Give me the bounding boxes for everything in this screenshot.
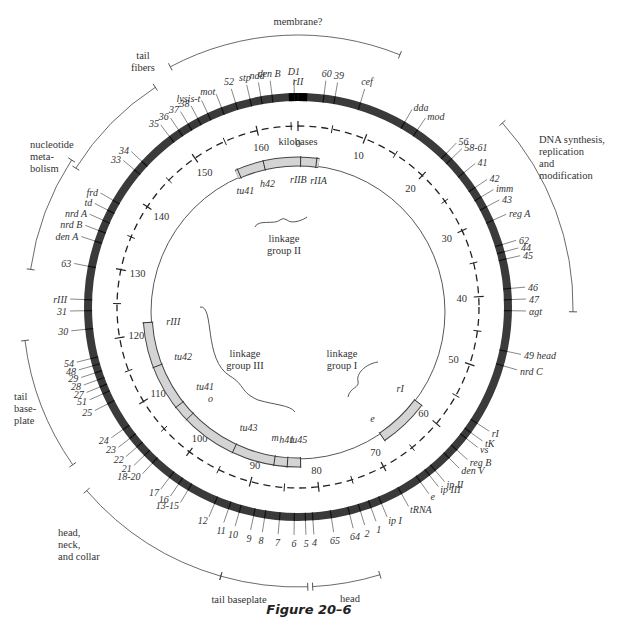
gene-leader [251, 516, 254, 530]
gene-label: αgt [529, 306, 542, 317]
gene-leader [270, 81, 272, 95]
gene-label: 8 [259, 535, 264, 546]
gene-label: 56 [459, 136, 469, 147]
gene-leader [71, 329, 85, 330]
gene-leader [224, 509, 229, 522]
gene-label: nrd B [60, 219, 82, 230]
region-label-tail-fibers: fibers [131, 62, 155, 73]
major-tick [143, 204, 151, 210]
scale-label-10: 10 [353, 150, 364, 161]
gene-label: rI [492, 428, 500, 439]
gene-leader [258, 82, 260, 96]
gene-leader [111, 430, 122, 438]
region-label-tail-baseplate: base- [14, 403, 37, 414]
major-tick [318, 482, 319, 492]
region-head-neck-arc [87, 491, 221, 577]
gene-label: 30 [57, 326, 68, 337]
gene-leader [131, 152, 141, 162]
major-tick [115, 337, 125, 339]
gene-label: 4 [312, 537, 317, 548]
linkage-marker-label: rIIA [310, 175, 328, 186]
scale-label-60: 60 [418, 408, 429, 419]
gene-leader [421, 482, 429, 493]
gene-leader [161, 478, 169, 489]
gene-leader [331, 518, 333, 532]
gene-label: 47 [529, 294, 540, 305]
linkage-marker-label: h42 [260, 178, 275, 189]
gene-label: ip II [447, 479, 465, 490]
major-tick [186, 448, 192, 456]
region-end-bar [72, 166, 79, 170]
gene-label: 18-20 [117, 471, 140, 482]
gene-leader [405, 110, 412, 122]
gene-leader [449, 458, 459, 468]
gene-leader [126, 447, 137, 456]
gene-label: 41 [478, 157, 488, 168]
brace-group-2 [255, 217, 307, 227]
region-label-head-neck-collar: head, [58, 527, 80, 538]
gene-leader [504, 366, 517, 370]
gene-label: 1 [376, 524, 381, 535]
gene-label: cef [361, 76, 374, 87]
gene-leader [262, 518, 264, 532]
gene-leader [74, 263, 88, 266]
gene-label: D1 [287, 66, 300, 77]
gene-label: 49 head [524, 350, 557, 361]
gene-leader [81, 237, 94, 241]
scale-label-160: 160 [253, 142, 269, 153]
figure-caption: Figure 20–6 [0, 602, 618, 617]
gene-leader [475, 180, 487, 188]
region-head-arc [313, 575, 380, 587]
region-end-bar [153, 84, 157, 91]
gene-leader [477, 424, 489, 432]
gene-leader [430, 476, 439, 487]
gene-leader [313, 520, 314, 534]
gene-leader [216, 94, 221, 107]
gene-label: 36 [158, 111, 169, 122]
gene-label: 37 [168, 104, 180, 115]
gene-leader [123, 160, 134, 169]
gene-leader [382, 504, 387, 517]
gene-leader [371, 508, 376, 521]
gene-label: mod [427, 111, 445, 122]
gene-label: 43 [502, 194, 512, 205]
gene-leader [161, 125, 169, 136]
gene-label: 10 [228, 529, 238, 540]
gene-label: ndd [250, 70, 266, 81]
linkage-marker-label: tu45 [289, 434, 307, 445]
gene-label: td [84, 197, 93, 208]
minor-tick [284, 483, 285, 491]
gene-label: nrd C [520, 366, 543, 377]
region-label-nucleotide: meta- [30, 151, 54, 162]
gene-label: tK [485, 438, 496, 449]
gene-label: 63 [61, 258, 71, 269]
gene-label: 11 [217, 525, 226, 536]
linkage-marker-label: e [370, 413, 375, 424]
region-label-dna-synthesis: DNA synthesis, [539, 134, 605, 145]
scale-label-120: 120 [129, 330, 145, 341]
region-end-bar [68, 158, 75, 162]
gene-label: 60 [322, 68, 332, 79]
gene-label: 51 [77, 396, 87, 407]
minor-tick [452, 394, 459, 398]
gene-leader [511, 287, 525, 288]
gene-label: 7 [275, 537, 281, 548]
gene-label: 35 [148, 118, 159, 129]
major-tick [363, 134, 367, 143]
gene-leader [231, 89, 235, 102]
region-label-nucleotide: nucleotide [30, 139, 74, 150]
gene-label: 42 [490, 173, 500, 184]
linkage-marker-label: tu41 [196, 381, 214, 392]
linkage-marker-label: tu41 [236, 185, 254, 196]
gene-leader [278, 520, 279, 534]
gene-leader [471, 433, 482, 441]
linkage-group-3-label: group III [226, 360, 264, 371]
scale-label-140: 140 [154, 211, 170, 222]
gene-leader [457, 450, 467, 459]
scale-label-50: 50 [448, 354, 459, 365]
gene-label: 62 [519, 235, 529, 246]
region-bottom-baseplate-arc [221, 576, 308, 587]
gene-leader [79, 366, 92, 370]
region-label-head-neck-collar: neck, [58, 539, 80, 550]
region-label-dna-synthesis: and [539, 158, 555, 169]
